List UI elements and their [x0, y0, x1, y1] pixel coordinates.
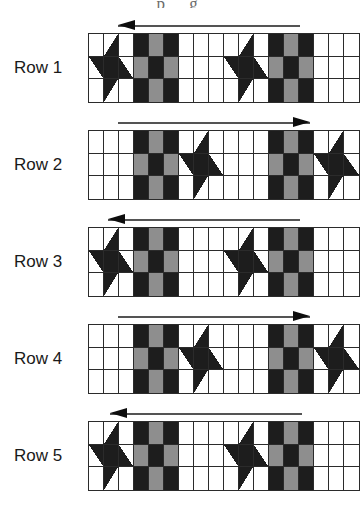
arrow-head-right-icon — [293, 311, 310, 321]
patch-dark — [269, 467, 284, 490]
patch-white — [344, 445, 359, 468]
patch-white — [344, 325, 359, 348]
patch-dark — [269, 131, 284, 154]
patch-dark — [284, 445, 299, 468]
patch-triangle-tr — [104, 228, 119, 251]
patch-white — [209, 34, 224, 57]
patch-triangle-br — [314, 154, 329, 177]
patch-white — [194, 273, 209, 296]
patch-white — [179, 273, 194, 296]
patch-white — [344, 370, 359, 393]
patch-gray — [134, 57, 149, 80]
patch-dark — [164, 467, 179, 490]
patch-gray — [284, 131, 299, 154]
nine-patch-block — [134, 228, 179, 296]
row-5-direction-arrow — [110, 408, 302, 419]
star-block — [224, 34, 269, 102]
patch-gray — [134, 154, 149, 177]
patch-triangle-tr — [104, 34, 119, 57]
patch-white — [254, 228, 269, 251]
patch-white — [329, 273, 344, 296]
patch-dark — [299, 325, 314, 348]
patch-white — [89, 467, 104, 490]
patch-white — [224, 370, 239, 393]
patch-white — [179, 131, 194, 154]
patch-dark — [299, 34, 314, 57]
patch-triangle-tl — [254, 445, 269, 468]
row-3-direction-arrow — [108, 214, 300, 225]
patch-white — [194, 57, 209, 80]
patch-white — [344, 273, 359, 296]
row-1-direction-arrow — [118, 20, 300, 31]
patch-dark — [284, 251, 299, 274]
nine-patch-block — [134, 131, 179, 199]
patch-white — [119, 348, 134, 371]
patch-white — [224, 176, 239, 199]
patch-white — [314, 422, 329, 445]
patch-gray — [299, 445, 314, 468]
patch-white — [89, 79, 104, 102]
patch-white — [89, 273, 104, 296]
patch-triangle-tr — [329, 131, 344, 154]
patch-gray — [284, 325, 299, 348]
patch-white — [179, 422, 194, 445]
patch-white — [254, 154, 269, 177]
patch-white — [224, 34, 239, 57]
patch-gray — [149, 422, 164, 445]
patch-gray — [134, 251, 149, 274]
patch-dark — [194, 348, 209, 371]
patch-triangle-bl — [194, 370, 209, 393]
patch-white — [329, 79, 344, 102]
quilt-strip-row-3 — [88, 227, 360, 297]
patch-dark — [104, 251, 119, 274]
patch-white — [179, 176, 194, 199]
patch-white — [179, 79, 194, 102]
nine-patch-block — [134, 422, 179, 490]
patch-white — [344, 251, 359, 274]
patch-dark — [134, 325, 149, 348]
star-block — [179, 325, 224, 393]
patch-white — [314, 57, 329, 80]
quilt-strip-row-1 — [88, 33, 360, 103]
patch-white — [254, 370, 269, 393]
patch-white — [314, 79, 329, 102]
quilt-strip-row-5 — [88, 421, 360, 491]
patch-dark — [134, 34, 149, 57]
patch-white — [254, 325, 269, 348]
patch-dark — [134, 370, 149, 393]
patch-white — [104, 370, 119, 393]
patch-white — [179, 57, 194, 80]
patch-white — [209, 176, 224, 199]
patch-white — [89, 176, 104, 199]
nine-patch-block — [269, 228, 314, 296]
patch-white — [254, 348, 269, 371]
patch-triangle-tr — [194, 325, 209, 348]
patch-white — [224, 467, 239, 490]
patch-dark — [269, 422, 284, 445]
patch-dark — [194, 154, 209, 177]
patch-white — [89, 325, 104, 348]
nine-patch-block — [269, 131, 314, 199]
patch-dark — [164, 79, 179, 102]
patch-triangle-bl — [239, 79, 254, 102]
patch-white — [104, 348, 119, 371]
patch-triangle-bl — [329, 176, 344, 199]
patch-triangle-tr — [239, 422, 254, 445]
patch-white — [254, 176, 269, 199]
arrow-shaft — [118, 316, 310, 318]
patch-dark — [149, 251, 164, 274]
patch-white — [314, 176, 329, 199]
patch-triangle-br — [89, 251, 104, 274]
patch-white — [119, 79, 134, 102]
patch-triangle-br — [179, 154, 194, 177]
patch-gray — [284, 370, 299, 393]
patch-triangle-br — [224, 251, 239, 274]
patch-dark — [164, 34, 179, 57]
patch-triangle-bl — [104, 79, 119, 102]
arrow-head-left-icon — [108, 214, 125, 224]
star-block — [89, 228, 134, 296]
star-block — [224, 422, 269, 490]
patch-dark — [299, 79, 314, 102]
patch-white — [239, 370, 254, 393]
patch-dark — [164, 131, 179, 154]
